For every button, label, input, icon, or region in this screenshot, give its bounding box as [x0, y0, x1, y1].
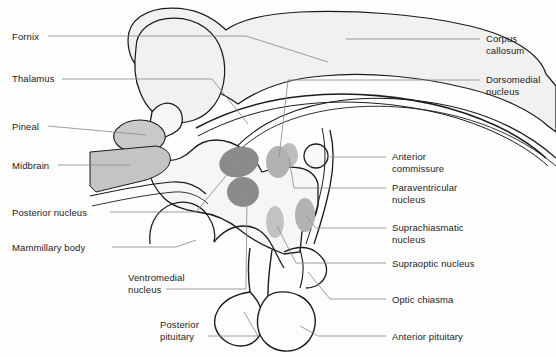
posterior-pituitary-lobe	[215, 292, 263, 346]
label-suprachiasmatic-nucleus: Suprachiasmatic nucleus	[392, 222, 464, 245]
label-ventromedial-nucleus: Ventromedial nucleus	[128, 272, 185, 295]
pituitary-notch	[300, 250, 303, 288]
label-midbrain: Midbrain	[12, 160, 49, 172]
label-optic-chiasma: Optic chiasma	[392, 294, 454, 306]
label-posterior-pituitary: Posterior pituitary	[160, 319, 199, 342]
label-anterior-commissure: Anterior commissure	[392, 151, 444, 174]
label-mammillary-body: Mammillary body	[12, 242, 85, 254]
label-supraoptic-nucleus: Supraoptic nucleus	[392, 258, 475, 270]
label-corpus-callosum: Corpus callosum	[486, 33, 524, 56]
nucleus-ventromedial	[227, 177, 259, 207]
leader-mammillary-body	[112, 240, 196, 247]
nucleus-suprachiasmatic	[295, 198, 315, 232]
hypothalamus-diagram: Fornix Thalamus Pineal Midbrain Posterio…	[0, 0, 556, 357]
leader-suprachiasmatic-nucleus	[306, 216, 386, 228]
diagram-canvas	[0, 0, 556, 357]
label-paraventricular-nucleus: Paraventricular nucleus	[392, 182, 457, 205]
label-thalamus: Thalamus	[12, 73, 55, 85]
label-dorsomedial-nucleus: Dorsomedial nucleus	[486, 74, 540, 97]
label-fornix: Fornix	[12, 31, 39, 43]
thalamus-body	[135, 18, 225, 123]
label-pineal: Pineal	[12, 121, 39, 133]
brain-anatomy	[90, 8, 556, 351]
nucleus-paraventricular	[280, 143, 298, 167]
nucleus-supraoptic	[266, 206, 284, 238]
leader-optic-chiasma	[308, 272, 386, 299]
label-posterior-nucleus: Posterior nucleus	[12, 207, 87, 219]
label-anterior-pituitary: Anterior pituitary	[392, 331, 463, 343]
anterior-pituitary-lobe	[257, 292, 315, 351]
